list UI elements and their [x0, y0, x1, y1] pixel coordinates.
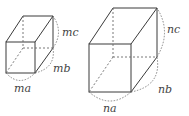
- small-box: ma mb mc: [6, 16, 79, 95]
- small-box-arc-a: [6, 73, 35, 81]
- large-box-label-b: nb: [158, 83, 172, 96]
- large-box: na nb nc: [89, 8, 180, 115]
- large-box-front-face: [89, 44, 131, 92]
- large-box-right-face: [131, 8, 157, 92]
- small-box-top-face: [6, 16, 53, 42]
- small-box-label-a: ma: [14, 82, 31, 95]
- small-box-label-c: mc: [62, 26, 79, 39]
- large-box-arc-c: [157, 8, 165, 57]
- large-box-label-c: nc: [167, 23, 180, 36]
- small-box-arc-c: [53, 16, 59, 48]
- large-box-top-face: [89, 8, 157, 44]
- two-boxes-diagram: ma mb mc na nb nc: [0, 0, 189, 116]
- small-box-right-face: [35, 16, 53, 73]
- small-box-front-face: [6, 42, 35, 73]
- large-box-label-a: na: [103, 102, 117, 115]
- large-box-hidden-edge: [89, 57, 113, 92]
- large-box-arc-a: [89, 92, 131, 101]
- small-box-label-b: mb: [53, 62, 70, 75]
- small-box-hidden-edge: [6, 48, 23, 73]
